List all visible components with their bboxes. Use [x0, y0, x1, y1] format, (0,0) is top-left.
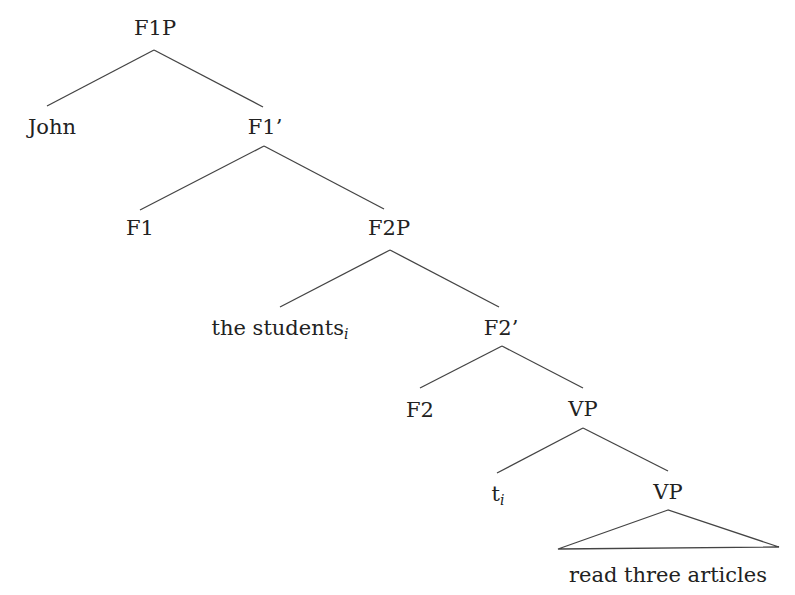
edge-f1bar-f2p	[264, 146, 384, 209]
node-f2-bar: F2’	[484, 318, 519, 339]
edge-vp-vp	[583, 428, 668, 471]
edge-f2p-students	[280, 250, 390, 307]
node-f1-bar: F1’	[248, 117, 283, 138]
edge-f1bar-f1	[140, 146, 264, 210]
index-subscript: i	[344, 326, 348, 342]
edge-f2bar-vp	[502, 346, 583, 388]
leaf-read-three-articles: read three articles	[569, 565, 767, 586]
node-vp-upper: VP	[568, 399, 597, 420]
tree-edges	[0, 0, 795, 595]
index-subscript: i	[500, 492, 504, 508]
node-f1p: F1P	[134, 18, 176, 39]
edge-f2p-f2bar	[390, 250, 499, 307]
node-f2p: F2P	[368, 218, 410, 239]
edge-vp-trace	[497, 428, 583, 473]
node-label: the students	[212, 316, 344, 340]
edge-f1p-f1bar	[154, 50, 263, 107]
node-f1: F1	[126, 218, 154, 239]
node-trace: ti	[492, 484, 505, 507]
node-the-students: the studentsi	[212, 318, 349, 341]
edge-f2bar-f2	[420, 346, 502, 388]
triangle-abbreviation	[558, 510, 779, 549]
node-john: John	[28, 117, 76, 138]
edge-f1p-john	[47, 50, 154, 106]
node-vp-lower: VP	[653, 482, 682, 503]
node-f2: F2	[406, 400, 434, 421]
